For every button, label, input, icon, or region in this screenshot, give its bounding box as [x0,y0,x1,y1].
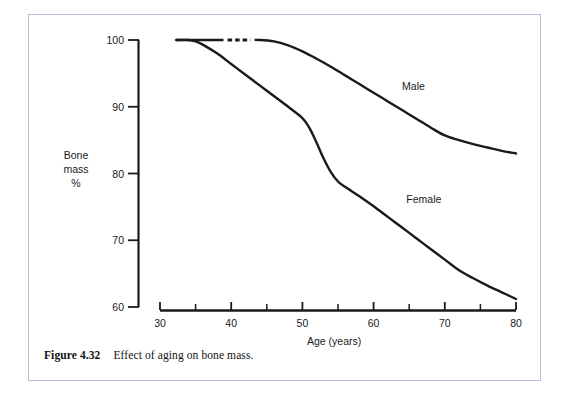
y-axis-title-line-1: Bone [48,148,104,162]
y-axis-title: Bone mass % [48,148,104,190]
y-axis-label-70: 70 [96,235,124,246]
x-axis-label-60: 60 [358,318,390,329]
y-axis-title-line-2: mass [48,162,104,176]
x-axis-title: Age (years) [307,336,361,347]
x-axis-label-30: 30 [144,318,176,329]
x-axis-label-70: 70 [429,318,461,329]
y-axis-label-60: 60 [96,302,124,313]
series-label-female: Female [406,194,441,205]
figure-caption-number: Figure 4.32 [44,349,100,361]
x-axis-label-50: 50 [286,318,318,329]
y-axis-label-90: 90 [96,102,124,113]
y-axis-title-line-3: % [48,176,104,190]
figure-frame-border [28,14,541,381]
figure-caption-text: Effect of aging on bone mass. [113,349,253,361]
x-axis-label-80: 80 [500,318,532,329]
y-axis-label-100: 100 [96,35,124,46]
figure-page: 60708090100 304050607080 Bone mass % Age… [0,0,570,397]
figure-caption: Figure 4.32Effect of aging on bone mass. [44,349,253,363]
x-axis-label-40: 40 [215,318,247,329]
series-label-male: Male [402,81,425,92]
